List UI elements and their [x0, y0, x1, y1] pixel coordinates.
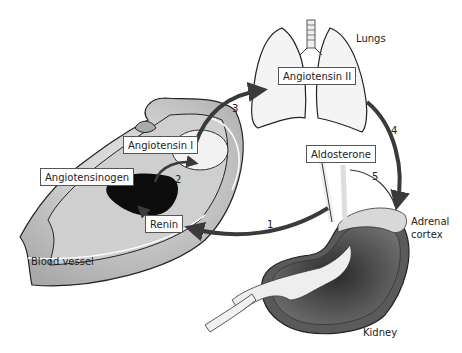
kidney-label: Kidney — [363, 328, 397, 338]
step-2-label: 2 — [175, 175, 181, 185]
lungs-label: Lungs — [356, 34, 386, 44]
step-5-label: 5 — [372, 172, 378, 182]
adrenal-cortex-label-line2: cortex — [411, 230, 443, 240]
step-3-label: 3 — [232, 104, 238, 114]
renin-label: Renin — [145, 215, 183, 233]
angiotensin-i-label: Angiotensin I — [123, 136, 198, 154]
aldosterone-label: Aldosterone — [306, 145, 376, 163]
blood-vessel-label: Blood vessel — [31, 257, 94, 267]
angiotensinogen-label: Angiotensinogen — [40, 168, 134, 186]
angiotensin-ii-label: Angiotensin II — [278, 67, 356, 85]
adrenal-cortex-label-line1: Adrenal — [411, 217, 449, 227]
step-1-label: 1 — [267, 220, 273, 230]
step-4-label: 4 — [391, 126, 397, 136]
